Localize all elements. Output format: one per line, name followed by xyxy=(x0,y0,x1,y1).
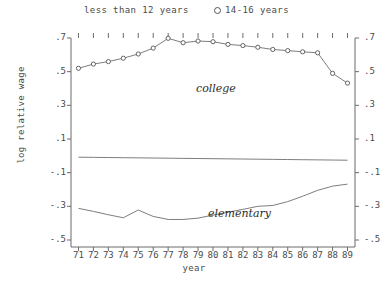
chart-root: less than 12 years 14-16 years log relat… xyxy=(0,0,388,285)
data-point-marker xyxy=(136,52,140,56)
data-point-marker xyxy=(271,47,275,51)
data-point-marker xyxy=(256,45,260,49)
series-line-14-16-years xyxy=(78,38,347,83)
annotation-elementary: elementary xyxy=(208,207,271,220)
data-point-marker xyxy=(106,59,110,63)
data-point-marker xyxy=(76,66,80,70)
annotation-college: college xyxy=(196,82,236,95)
data-point-marker xyxy=(286,49,290,53)
data-point-marker xyxy=(301,50,305,54)
data-point-marker xyxy=(226,42,230,46)
data-point-marker xyxy=(151,46,155,50)
data-point-marker xyxy=(196,39,200,43)
data-point-marker xyxy=(166,36,170,40)
data-point-marker xyxy=(91,62,95,66)
data-point-marker xyxy=(241,43,245,47)
series-line-reference-line xyxy=(78,157,347,160)
data-point-marker xyxy=(316,51,320,55)
data-point-marker xyxy=(330,71,334,75)
data-point-marker xyxy=(181,41,185,45)
data-point-marker xyxy=(121,56,125,60)
plot-area xyxy=(0,0,388,285)
data-point-marker xyxy=(211,40,215,44)
data-point-marker xyxy=(345,81,349,85)
